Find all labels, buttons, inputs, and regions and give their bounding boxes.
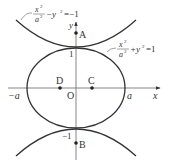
x-axis-label: x — [152, 90, 158, 101]
ellipse-equation: x 2 a 2 +y 2 =1 — [117, 39, 156, 59]
ellipse-leader-line — [107, 48, 116, 52]
y-neg-tick: −1 — [62, 131, 72, 141]
origin-label: O — [67, 90, 74, 101]
svg-text:a: a — [119, 50, 123, 59]
svg-text:=−1: =−1 — [64, 9, 79, 19]
label-D: D — [56, 75, 63, 86]
label-A: A — [79, 29, 87, 40]
svg-text:x: x — [34, 5, 39, 14]
point-D — [58, 86, 62, 90]
y-pos-tick: 1 — [69, 49, 74, 59]
svg-text:−y: −y — [46, 9, 56, 19]
svg-text:2: 2 — [40, 14, 43, 19]
point-A — [74, 31, 78, 35]
svg-text:2: 2 — [124, 39, 127, 44]
svg-text:x: x — [118, 40, 123, 49]
svg-text:=1: =1 — [146, 44, 156, 54]
point-B — [74, 141, 78, 145]
label-C: C — [88, 75, 95, 86]
svg-text:+y: +y — [130, 44, 140, 54]
label-B: B — [79, 139, 86, 150]
svg-text:2: 2 — [40, 4, 43, 9]
svg-text:2: 2 — [142, 44, 145, 49]
svg-text:2: 2 — [60, 9, 63, 14]
hyperbola-leader-line — [21, 13, 32, 20]
conic-diagram: A B D C O x y −a a 1 −1 x 2 a 2 −y 2 =−1… — [0, 0, 171, 165]
point-C — [90, 86, 94, 90]
x-pos-tick: a — [127, 90, 132, 101]
x-neg-tick: −a — [8, 90, 20, 101]
svg-text:2: 2 — [124, 49, 127, 54]
y-axis-label: y — [68, 20, 73, 30]
svg-text:a: a — [35, 15, 39, 24]
